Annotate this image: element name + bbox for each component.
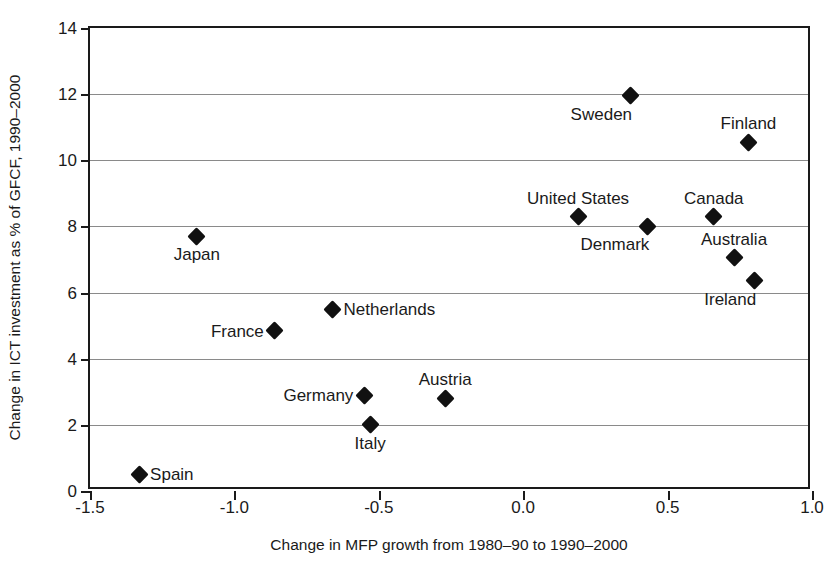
y-tick-mark: [81, 226, 90, 228]
diamond-marker-icon: [569, 207, 587, 225]
y-tick-label: 12: [58, 86, 77, 103]
diamond-marker-icon: [436, 389, 454, 407]
scatter-chart: Change in ICT investment as % of GFCF, 1…: [0, 0, 840, 584]
data-point-label: Denmark: [580, 236, 649, 253]
data-point-label: United States: [527, 190, 629, 207]
data-point-label: Spain: [150, 466, 193, 483]
diamond-marker-icon: [745, 272, 763, 290]
diamond-marker-icon: [266, 321, 284, 339]
x-tick-label: -1.5: [75, 499, 104, 516]
diamond-marker-icon: [355, 386, 373, 404]
diamond-marker-icon: [621, 87, 639, 105]
y-tick-mark: [81, 293, 90, 295]
y-tick-mark: [81, 94, 90, 96]
data-point-label: Sweden: [571, 106, 632, 123]
diamond-marker-icon: [705, 207, 723, 225]
gridline: [90, 94, 808, 95]
data-point-label: Canada: [684, 190, 744, 207]
data-point-label: France: [211, 322, 264, 339]
plot-area: 02468101214 -1.5-1.0-0.50.00.51.0 Sweden…: [88, 26, 810, 489]
diamond-marker-icon: [323, 300, 341, 318]
y-tick-label: 14: [58, 20, 77, 37]
data-point-label: Italy: [355, 435, 386, 452]
diamond-marker-icon: [739, 133, 757, 151]
data-point-label: Austria: [419, 371, 472, 388]
y-tick-mark: [81, 491, 90, 493]
x-tick-label: 0.5: [656, 499, 680, 516]
data-point-label: Ireland: [704, 291, 756, 308]
y-tick-label: 2: [68, 416, 77, 433]
y-tick-mark: [81, 28, 90, 30]
gridline: [90, 293, 808, 294]
x-tick-label: 1.0: [800, 499, 824, 516]
y-axis-title: Change in ICT investment as % of GFCF, 1…: [4, 26, 26, 489]
x-tick-label: 0.0: [511, 499, 535, 516]
diamond-marker-icon: [725, 249, 743, 267]
data-point-label: Netherlands: [344, 301, 436, 318]
x-tick-label: -1.0: [220, 499, 249, 516]
gridline: [90, 160, 808, 161]
gridline: [90, 359, 808, 360]
data-point-label: Finland: [721, 115, 777, 132]
y-tick-label: 0: [68, 483, 77, 500]
diamond-marker-icon: [188, 227, 206, 245]
x-tick-label: -0.5: [364, 499, 393, 516]
y-tick-mark: [81, 160, 90, 162]
gridline: [90, 226, 808, 227]
diamond-marker-icon: [361, 416, 379, 434]
y-tick-label: 8: [68, 218, 77, 235]
x-axis-title: Change in MFP growth from 1980–90 to 199…: [88, 536, 810, 554]
gridline: [90, 425, 808, 426]
y-tick-label: 4: [68, 350, 77, 367]
y-tick-mark: [81, 359, 90, 361]
data-point-label: Germany: [283, 387, 353, 404]
y-tick-label: 10: [58, 152, 77, 169]
y-tick-label: 6: [68, 284, 77, 301]
data-point-label: Japan: [174, 246, 220, 263]
y-tick-mark: [81, 425, 90, 427]
diamond-marker-icon: [638, 217, 656, 235]
diamond-marker-icon: [130, 465, 148, 483]
data-point-label: Australia: [701, 231, 767, 248]
